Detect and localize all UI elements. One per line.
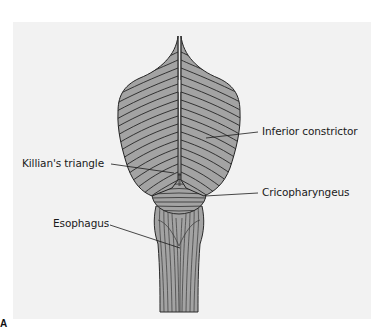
label-cricopharyngeus: Cricopharyngeus: [262, 186, 349, 198]
label-inferior-constrictor: Inferior constrictor: [262, 125, 358, 137]
figure-letter: A: [0, 318, 7, 329]
inferior-constrictor-left: [115, 36, 178, 200]
esophagus-shape: [154, 206, 203, 312]
leader-cricopharyngeus: [205, 193, 258, 196]
inferior-constrictor-right: [181, 36, 244, 200]
label-killians-triangle: Killian's triangle: [22, 157, 104, 169]
label-esophagus: Esophagus: [53, 217, 109, 229]
